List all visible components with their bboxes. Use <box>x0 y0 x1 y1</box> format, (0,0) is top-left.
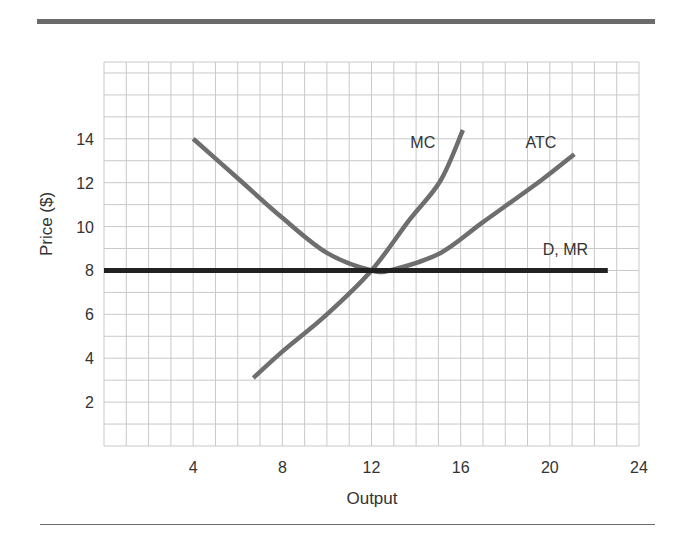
y-axis-ticks: 2468101214 <box>76 131 94 411</box>
curve-labels: MCATCD, MR <box>410 134 588 259</box>
chart: 2468101214 4812162024 MCATCD, MR Price (… <box>0 0 686 541</box>
y-tick-label: 12 <box>76 175 94 192</box>
x-axis-title: Output <box>346 489 397 508</box>
y-tick-label: 10 <box>76 219 94 236</box>
bottom-rule <box>40 524 655 525</box>
x-tick-label: 4 <box>189 459 198 476</box>
x-tick-label: 16 <box>452 459 470 476</box>
x-tick-label: 20 <box>541 459 559 476</box>
x-tick-label: 8 <box>278 459 287 476</box>
y-tick-label: 4 <box>85 350 94 367</box>
x-tick-label: 12 <box>363 459 381 476</box>
atc-label: ATC <box>526 134 557 151</box>
mc-curve <box>253 130 463 378</box>
y-tick-label: 8 <box>85 262 94 279</box>
x-axis-ticks: 4812162024 <box>189 459 648 476</box>
y-tick-label: 6 <box>85 306 94 323</box>
y-tick-label: 14 <box>76 131 94 148</box>
mc-label: MC <box>410 134 435 151</box>
y-tick-label: 2 <box>85 394 94 411</box>
x-tick-label: 24 <box>630 459 648 476</box>
y-axis-title: Price ($) <box>37 192 56 256</box>
d-mr-label: D, MR <box>543 241 588 258</box>
curves <box>104 130 608 378</box>
